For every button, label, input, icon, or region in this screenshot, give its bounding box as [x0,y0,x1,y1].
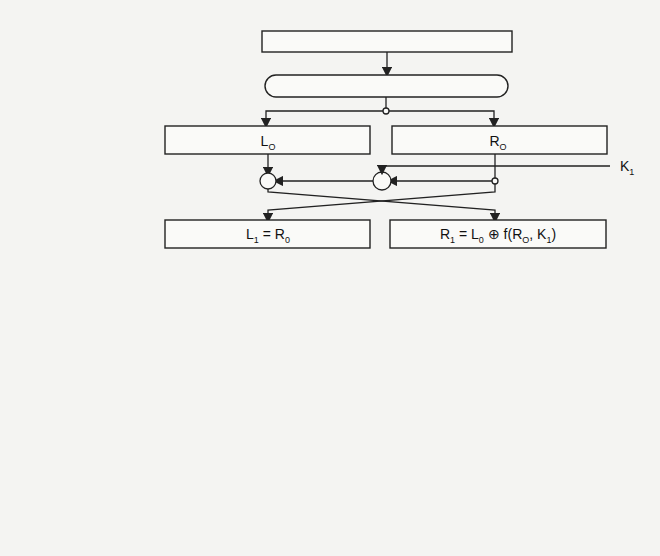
des-diagram: LO RO K1 L1 = R0 R1 = L0 ⊕ f(RO, K1) [0,0,660,556]
xor-1 [260,173,276,189]
k1-label: K1 [620,158,634,177]
f-function-1 [373,172,391,190]
input-box [262,31,512,52]
initial-permutation [265,75,508,97]
